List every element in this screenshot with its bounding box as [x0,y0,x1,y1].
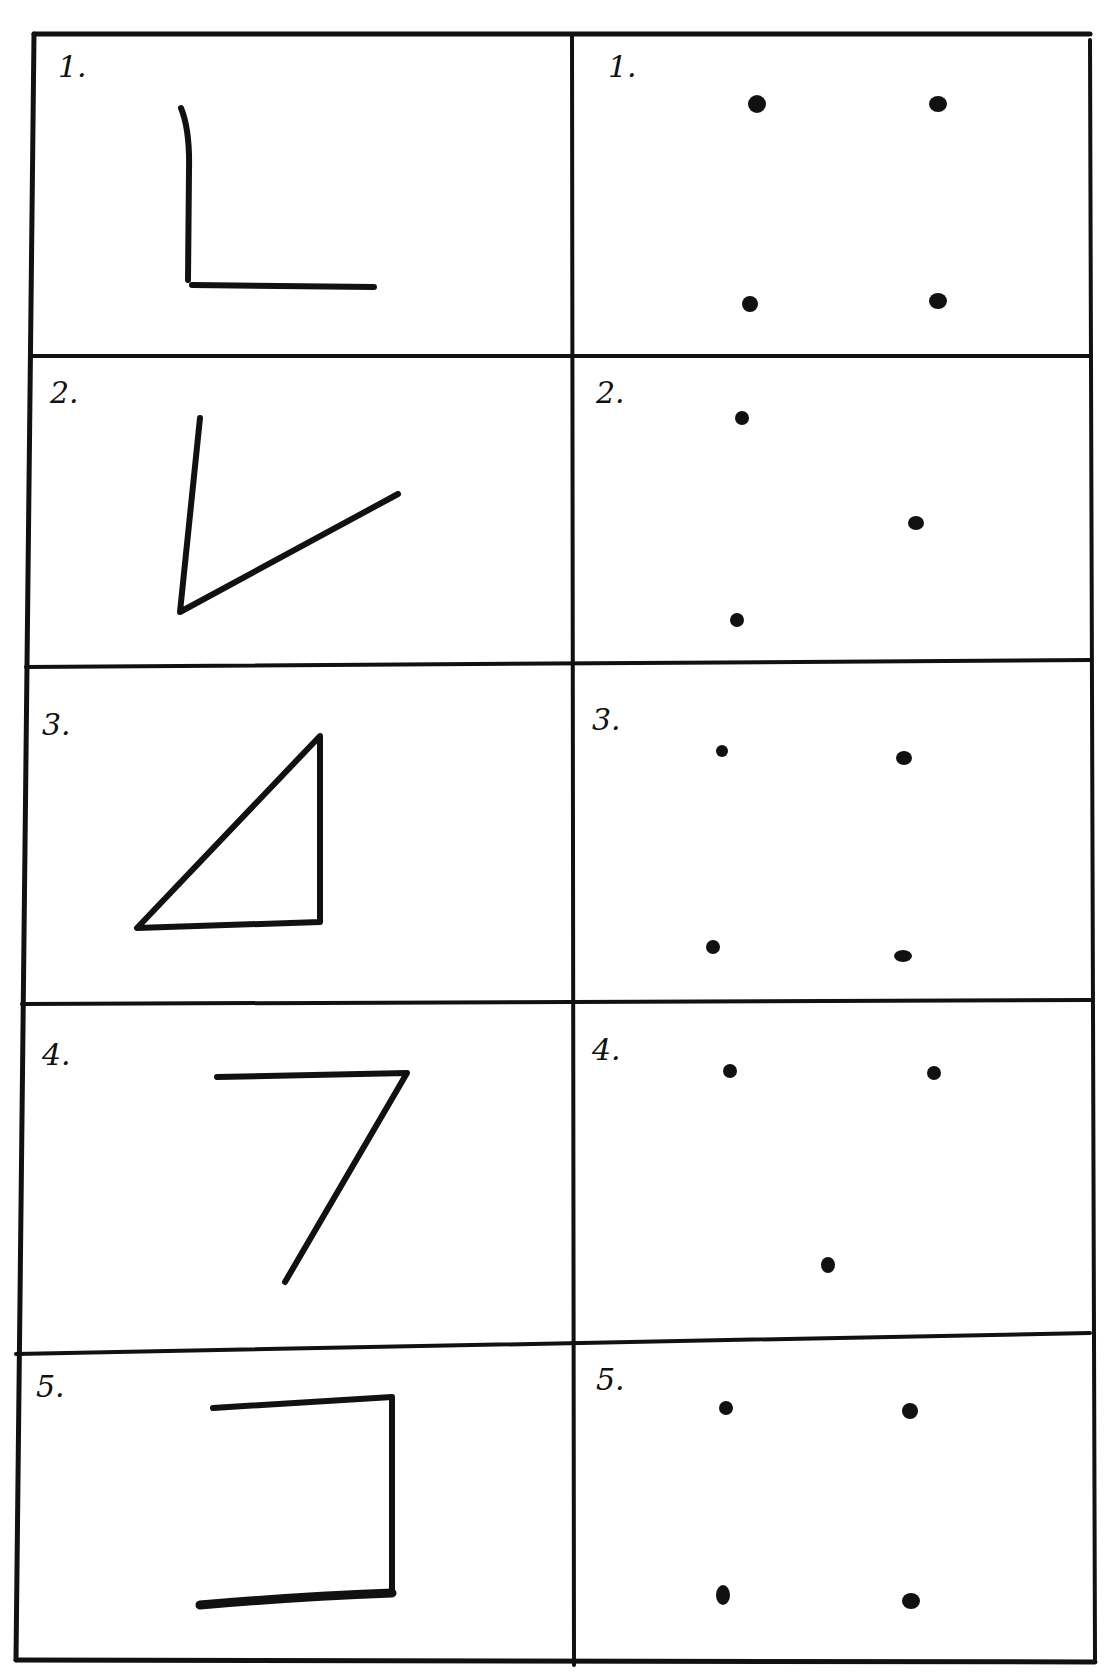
shape-4-seven [217,1073,407,1282]
shape-3-triangle [137,736,320,928]
shape-5-bracket [213,1397,392,1594]
left-label-5: 5. [36,1372,65,1402]
left-label-3: 3. [42,710,71,740]
right-label-3: 3. [592,705,621,735]
left-label-4: 4. [42,1040,71,1070]
left-label-2: 2. [50,378,79,408]
worksheet-grid [0,0,1114,1675]
shape-2-v [180,418,398,612]
right-label-1: 1. [608,52,637,82]
worksheet: 1. 2. 3. 4. 5. 1. 2. 3. 4. 5. [0,0,1114,1675]
shape-1-l [181,108,189,280]
right-label-2: 2. [596,378,625,408]
left-label-1: 1. [58,52,87,82]
right-label-5: 5. [596,1365,625,1395]
right-label-4: 4. [592,1035,621,1065]
